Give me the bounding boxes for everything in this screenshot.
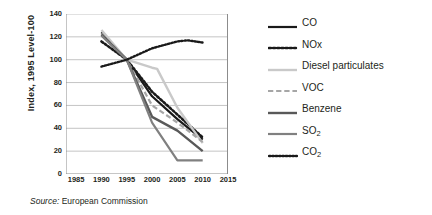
legend-item-diesel-particulates[interactable]: Diesel particulates: [268, 55, 428, 77]
legend-item-so2[interactable]: SO2: [268, 120, 428, 142]
series-line-so2: [101, 36, 202, 161]
y-axis-tick-label: 60: [40, 101, 62, 109]
legend-item-voc[interactable]: VOC: [268, 77, 428, 99]
legend-label: VOC: [302, 82, 324, 93]
legend-label: SO2: [302, 125, 321, 136]
legend-swatch-icon: [268, 125, 298, 135]
legend-label: Diesel particulates: [302, 60, 384, 71]
y-axis-tick-label: 100: [40, 56, 62, 64]
legend-item-benzene[interactable]: Benzene: [268, 98, 428, 120]
chart-figure: Index, 1995 Level-100 020406080100120140…: [0, 0, 432, 215]
y-axis-tick-label: 40: [40, 124, 62, 132]
y-axis-tick-label: 20: [40, 147, 62, 155]
legend-swatch-icon: [268, 147, 298, 157]
legend-item-co[interactable]: CO: [268, 12, 428, 34]
source-caption: Source: European Commission: [30, 196, 148, 206]
legend-swatch-icon: [268, 82, 298, 92]
legend-swatch-icon: [268, 104, 298, 114]
x-axis-tick-labels: 1985199019952000200520102015: [0, 176, 260, 190]
y-axis-tick-label: 80: [40, 79, 62, 87]
x-axis-tick-label: 2015: [211, 176, 245, 184]
legend-item-nox[interactable]: NOx: [268, 34, 428, 56]
legend-label: CO2: [302, 146, 321, 157]
legend-swatch-icon: [268, 61, 298, 71]
source-label: Source:: [30, 196, 59, 206]
legend-label: CO: [302, 17, 317, 28]
chart-legend: CONOxDiesel particulatesVOCBenzeneSO2CO2: [268, 12, 428, 163]
legend-item-co2[interactable]: CO2: [268, 141, 428, 163]
legend-swatch-icon: [268, 18, 298, 28]
plot-area: [66, 14, 228, 174]
data-series-layer: [101, 30, 202, 160]
y-axis-tick-label: 140: [40, 10, 62, 18]
y-axis-tick-label: 120: [40, 33, 62, 41]
legend-label: Benzene: [302, 103, 341, 114]
legend-swatch-icon: [268, 39, 298, 49]
chart-svg: [66, 14, 228, 174]
legend-label: NOx: [302, 39, 322, 50]
gridlines: [66, 14, 228, 174]
source-text: European Commission: [62, 196, 148, 206]
y-axis-title: Index, 1995 Level-100: [26, 0, 36, 138]
